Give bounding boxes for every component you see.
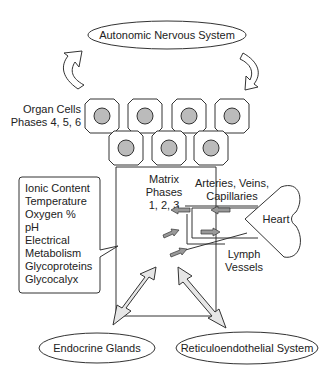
property-item: Ionic Content	[25, 182, 90, 194]
organ-cell	[128, 99, 162, 133]
matrix-label: Matrix Phases 1, 2, 3	[146, 173, 183, 211]
svg-text:Phases: Phases	[146, 186, 183, 198]
svg-text:Matrix: Matrix	[149, 173, 179, 185]
organ-cell	[109, 131, 143, 165]
vessels-label: Arteries, Veins, Capillaries	[195, 177, 269, 202]
organ-cell	[152, 131, 186, 165]
svg-text:Vessels: Vessels	[225, 261, 263, 273]
property-item: Glycocalyx	[25, 273, 79, 285]
property-item: Electrical	[25, 234, 70, 246]
svg-text:Capillaries: Capillaries	[206, 190, 258, 202]
organ-cells-group	[85, 99, 249, 165]
organ-cell	[172, 99, 206, 133]
arrow-diag-icon	[163, 229, 179, 238]
organ-cells-label: Organ Cells Phases 4, 5, 6	[11, 103, 82, 128]
property-item: pH	[25, 221, 39, 233]
autonomic-nervous-system-node: Autonomic Nervous System	[88, 21, 246, 49]
property-item: Glycoproteins	[25, 260, 93, 272]
property-item: Oxygen %	[25, 208, 76, 220]
svg-text:Organ Cells: Organ Cells	[23, 103, 82, 115]
svg-text:Arteries, Veins,: Arteries, Veins,	[195, 177, 269, 189]
svg-text:Heart: Heart	[263, 213, 290, 225]
organ-cell	[85, 99, 119, 133]
properties-callout: Ionic Content Temperature Oxygen % pH El…	[19, 177, 118, 293]
svg-text:Phases 4, 5, 6: Phases 4, 5, 6	[11, 116, 81, 128]
svg-text:Lymph: Lymph	[228, 248, 261, 260]
ans-label: Autonomic Nervous System	[99, 29, 235, 41]
arrow-diag-icon	[170, 248, 187, 257]
matrix-regulation-diagram: Autonomic Nervous System Organ Cells Pha…	[0, 0, 336, 381]
double-arrow-res-icon	[178, 267, 226, 328]
arrow-left-icon	[211, 206, 230, 214]
property-item: Temperature	[25, 195, 87, 207]
endocrine-glands-node: Endocrine Glands	[39, 333, 155, 363]
svg-text:Endocrine Glands: Endocrine Glands	[53, 342, 141, 354]
flow-arrows	[163, 206, 230, 257]
svg-text:Reticuloendothelial System: Reticuloendothelial System	[181, 342, 314, 354]
curved-arrow-up-icon	[63, 51, 84, 89]
lymph-label: Lymph Vessels	[225, 248, 263, 273]
organ-cell	[194, 131, 228, 165]
reticuloendothelial-system-node: Reticuloendothelial System	[176, 332, 318, 364]
curved-arrow-down-icon	[240, 53, 258, 90]
property-item: Metabolism	[25, 247, 81, 259]
arrow-right-icon	[201, 228, 220, 236]
organ-cell	[215, 99, 249, 133]
